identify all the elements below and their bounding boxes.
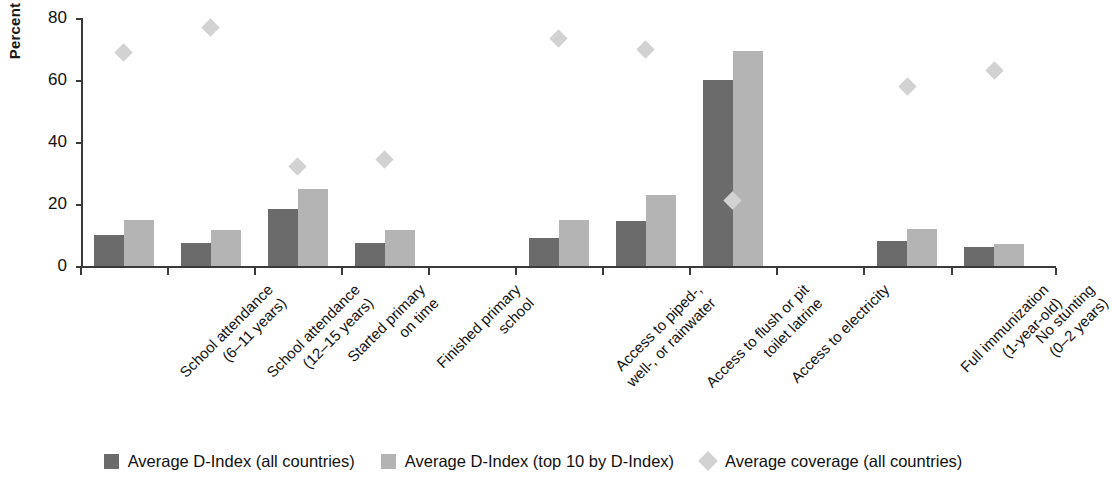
marker-average-coverage: [114, 43, 132, 61]
marker-average-coverage: [637, 40, 655, 58]
x-axis-tick: [689, 268, 691, 275]
bar-d-index-top10: [124, 220, 154, 267]
x-axis-tick: [602, 268, 604, 275]
x-axis-tick: [863, 268, 865, 275]
legend-swatch: [104, 454, 119, 469]
x-axis-category-label: Access to flush or pittoilet latrine: [701, 280, 826, 405]
legend-swatch: [381, 454, 396, 469]
marker-average-coverage: [985, 61, 1003, 79]
x-axis-tick: [515, 268, 517, 275]
x-axis-category-label: Access to piped-,well-, or rainwater: [608, 280, 719, 391]
bar-d-index-top10: [559, 220, 589, 267]
chart-legend: Average D-Index (all countries)Average D…: [0, 446, 1066, 476]
x-axis-tick: [428, 268, 430, 275]
marker-average-coverage: [201, 18, 219, 36]
bar-d-index-top10: [733, 51, 763, 266]
x-axis-tick: [341, 268, 343, 275]
x-axis-tick: [951, 268, 953, 275]
x-axis-line: [81, 266, 1056, 268]
x-axis-tick: [167, 268, 169, 275]
bar-d-index-top10: [298, 189, 328, 267]
marker-average-coverage: [375, 150, 393, 168]
legend-label: Average coverage (all countries): [725, 452, 962, 471]
x-axis-category-label: Finished primaryschool: [432, 280, 537, 385]
bar-d-index-top10: [211, 230, 241, 266]
bar-d-index-all: [181, 243, 211, 266]
x-axis-tick: [776, 268, 778, 275]
x-axis-tick: [80, 268, 82, 275]
marker-average-coverage: [288, 158, 306, 176]
bar-d-index-top10: [907, 229, 937, 266]
bar-d-index-top10: [646, 195, 676, 266]
x-axis-tick: [1055, 268, 1057, 275]
bar-d-index-top10: [994, 244, 1024, 266]
marker-average-coverage: [550, 29, 568, 47]
legend-item: Average D-Index (all countries): [104, 452, 355, 471]
legend-item: Average coverage (all countries): [700, 452, 962, 471]
bar-d-index-all: [703, 80, 733, 266]
marker-average-coverage: [898, 77, 916, 95]
bar-d-index-all: [529, 238, 559, 266]
legend-diamond-icon: [700, 453, 716, 469]
legend-label: Average D-Index (top 10 by D-Index): [405, 452, 674, 471]
bar-d-index-all: [964, 247, 994, 266]
legend-swatch: [698, 451, 718, 471]
bar-d-index-top10: [385, 230, 415, 266]
x-axis-tick: [254, 268, 256, 275]
legend-item: Average D-Index (top 10 by D-Index): [381, 452, 674, 471]
plot-area: [0, 0, 1066, 266]
bar-d-index-all: [355, 243, 385, 266]
bar-d-index-all: [268, 209, 298, 266]
legend-label: Average D-Index (all countries): [128, 452, 355, 471]
bar-d-index-all: [94, 235, 124, 266]
bar-d-index-all: [877, 241, 907, 266]
bar-d-index-all: [616, 221, 646, 266]
